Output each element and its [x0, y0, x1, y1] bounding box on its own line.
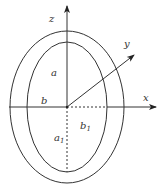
- z-axis-label: z: [48, 13, 55, 24]
- label-b: b: [41, 95, 47, 106]
- y-axis-label: y: [123, 38, 130, 49]
- ellipse-diagram: z y x a b b1 a1: [0, 0, 161, 189]
- label-a1: a1: [54, 132, 64, 145]
- x-axis-label: x: [143, 92, 149, 103]
- label-b1: b1: [80, 120, 91, 133]
- label-a: a: [51, 67, 57, 78]
- origin-point: [66, 106, 68, 108]
